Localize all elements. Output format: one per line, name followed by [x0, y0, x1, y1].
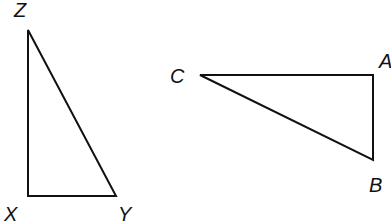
vertex-label-y: Y [118, 203, 133, 223]
triangle-xyz: Z X Y [3, 0, 133, 223]
triangle-xyz-shape [28, 30, 116, 196]
vertex-label-x: X [3, 203, 18, 223]
vertex-label-z: Z [13, 0, 27, 21]
vertex-label-b: B [369, 174, 382, 196]
vertex-label-c: C [170, 65, 185, 87]
diagram-canvas: Z X Y C A B [0, 0, 391, 223]
vertex-label-a: A [378, 50, 391, 72]
triangle-abc: C A B [170, 50, 391, 196]
triangle-abc-shape [200, 75, 373, 160]
